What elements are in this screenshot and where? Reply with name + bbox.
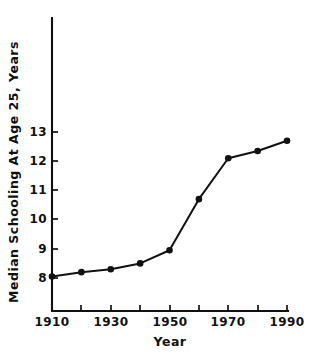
data-point <box>225 155 232 162</box>
data-series-line <box>52 141 287 277</box>
x-tick-label-1950: 1950 <box>153 316 188 328</box>
x-tick-label-1930: 1930 <box>94 316 129 328</box>
data-point <box>166 247 173 254</box>
data-point <box>107 266 114 273</box>
data-point <box>137 260 144 267</box>
x-tick-label-1990: 1990 <box>270 316 305 328</box>
y-axis-title: Median Schooling At Age 25, Years <box>8 41 21 303</box>
data-markers <box>49 137 291 279</box>
data-point <box>49 273 56 280</box>
y-tick-label-8: 8 <box>38 272 47 284</box>
chart-plot-area <box>0 0 315 361</box>
data-point <box>284 137 291 144</box>
y-tick-label-13: 13 <box>30 126 48 138</box>
y-tick-label-12: 12 <box>30 155 48 167</box>
data-point <box>78 269 85 276</box>
data-point <box>254 148 261 155</box>
data-point <box>196 196 203 203</box>
chart-figure: 13 12 11 10 9 8 1910 1930 1950 1970 1990… <box>0 0 315 361</box>
x-axis-title: Year <box>154 336 187 349</box>
x-tick-label-1970: 1970 <box>211 316 246 328</box>
y-tick-label-11: 11 <box>30 184 48 196</box>
y-tick-label-10: 10 <box>30 213 48 225</box>
x-tick-label-1910: 1910 <box>35 316 70 328</box>
y-tick-label-9: 9 <box>38 243 47 255</box>
